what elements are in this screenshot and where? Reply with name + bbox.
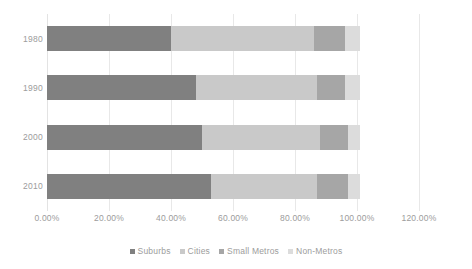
bar-group-1980 xyxy=(47,26,419,51)
bar-segment-2010-suburbs xyxy=(47,174,211,199)
bar-segment-1990-suburbs xyxy=(47,75,196,100)
bar-segment-1980-suburbs xyxy=(47,26,171,51)
legend-item-cities[interactable]: Cities xyxy=(180,247,210,256)
legend-label: Small Metros xyxy=(227,247,279,256)
bar-segment-2000-suburbs xyxy=(47,125,202,150)
bar-segment-1990-small-metros xyxy=(317,75,345,100)
bar-segment-1990-cities xyxy=(196,75,317,100)
bar-segment-2000-small-metros xyxy=(320,125,348,150)
y-axis-label-1990: 1990 xyxy=(3,84,43,93)
legend-item-small-metros[interactable]: Small Metros xyxy=(219,247,279,256)
bar-segment-1990-non-metros xyxy=(345,75,361,100)
legend-item-suburbs[interactable]: Suburbs xyxy=(130,247,171,256)
bar-group-1990 xyxy=(47,75,419,100)
y-axis: 1980199020002010 xyxy=(0,14,43,211)
x-axis-tick-2000: 20.00% xyxy=(79,214,139,223)
bar-segment-2010-cities xyxy=(211,174,316,199)
y-axis-label-2000: 2000 xyxy=(3,133,43,142)
bar-segment-2000-non-metros xyxy=(348,125,360,150)
legend-label: Suburbs xyxy=(138,247,171,256)
bar-segment-1980-small-metros xyxy=(314,26,345,51)
x-axis-tick-12000: 120.00% xyxy=(389,214,449,223)
plot-area xyxy=(47,14,419,211)
legend-label: Non-Metros xyxy=(296,247,342,256)
bars-layer xyxy=(47,14,419,211)
x-axis-tick-000: 0.00% xyxy=(17,214,77,223)
legend-swatch-icon xyxy=(219,249,224,254)
bar-segment-2010-small-metros xyxy=(317,174,348,199)
bar-group-2010 xyxy=(47,174,419,199)
bar-group-2000 xyxy=(47,125,419,150)
legend-label: Cities xyxy=(188,247,210,256)
bar-segment-1980-cities xyxy=(171,26,314,51)
legend-swatch-icon xyxy=(288,249,293,254)
x-axis: 0.00%20.00%40.00%60.00%80.00%100.00%120.… xyxy=(0,214,472,230)
x-axis-tick-6000: 60.00% xyxy=(203,214,263,223)
bar-segment-2010-non-metros xyxy=(348,174,360,199)
y-axis-label-1980: 1980 xyxy=(3,35,43,44)
x-axis-tick-8000: 80.00% xyxy=(265,214,325,223)
x-axis-tick-4000: 40.00% xyxy=(141,214,201,223)
y-axis-label-2010: 2010 xyxy=(3,182,43,191)
legend-swatch-icon xyxy=(180,249,185,254)
legend-swatch-icon xyxy=(130,249,135,254)
x-axis-tick-10000: 100.00% xyxy=(327,214,387,223)
chart-legend: SuburbsCitiesSmall MetrosNon-Metros xyxy=(0,247,472,256)
legend-item-non-metros[interactable]: Non-Metros xyxy=(288,247,342,256)
gridline-12000 xyxy=(419,14,420,211)
stacked-bar-chart: 1980199020002010 0.00%20.00%40.00%60.00%… xyxy=(0,0,472,269)
bar-segment-1980-non-metros xyxy=(345,26,361,51)
bar-segment-2000-cities xyxy=(202,125,320,150)
